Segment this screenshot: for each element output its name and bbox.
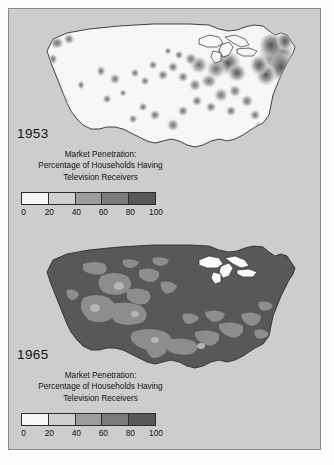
legend-1953: 0 20 40 60 80 100: [21, 192, 156, 220]
legend-swatch-20-40: [48, 193, 75, 204]
usa-choropleth-1953: [23, 15, 309, 165]
year-label-1953: 1953: [17, 127, 49, 141]
legend-tick-60: 60: [99, 207, 108, 217]
map-caption-1953: Market Penetration: Percentage of Househ…: [13, 149, 188, 183]
figure-frame: 1953 Market Penetration: Percentage of H…: [8, 8, 321, 450]
caption-line-1: Market Penetration:: [13, 149, 188, 160]
legend-ticks-1953: 0 20 40 60 80 100: [21, 207, 156, 220]
legend-tick-40: 40: [72, 428, 81, 438]
legend-tick-80: 80: [126, 428, 135, 438]
figure-page: 1953 Market Penetration: Percentage of H…: [0, 0, 334, 465]
legend-tick-20: 20: [45, 428, 54, 438]
usa-choropleth-1965: [23, 236, 309, 386]
map-caption-1965: Market Penetration: Percentage of Househ…: [13, 370, 188, 404]
legend-tick-0: 0: [21, 428, 26, 438]
caption-line-2: Percentage of Households Having: [13, 160, 188, 171]
legend-tick-100: 100: [149, 207, 163, 217]
map-panel-1965: 1965 Market Penetration: Percentage of H…: [9, 230, 320, 450]
caption-line-3: Television Receivers: [13, 393, 188, 404]
legend-swatch-40-60: [75, 193, 102, 204]
legend-swatches-1953: [21, 192, 156, 205]
caption-line-1: Market Penetration:: [13, 370, 188, 381]
caption-line-2: Percentage of Households Having: [13, 381, 188, 392]
legend-tick-40: 40: [72, 207, 81, 217]
legend-tick-0: 0: [21, 207, 26, 217]
year-label-1965: 1965: [17, 348, 49, 362]
legend-swatch-80-100: [128, 193, 155, 204]
map-graphic-1953: [23, 15, 309, 165]
legend-swatch-60-80: [101, 193, 128, 204]
legend-swatch-40-60: [75, 414, 102, 425]
map-panel-1953: 1953 Market Penetration: Percentage of H…: [9, 9, 320, 230]
legend-swatch-80-100: [128, 414, 155, 425]
legend-swatch-0-20: [22, 414, 48, 425]
legend-swatch-20-40: [48, 414, 75, 425]
legend-1965: 0 20 40 60 80 100: [21, 413, 156, 441]
legend-swatch-0-20: [22, 193, 48, 204]
legend-swatch-60-80: [101, 414, 128, 425]
legend-tick-100: 100: [149, 428, 163, 438]
caption-line-3: Television Receivers: [13, 172, 188, 183]
legend-tick-20: 20: [45, 207, 54, 217]
legend-tick-80: 80: [126, 207, 135, 217]
legend-swatches-1965: [21, 413, 156, 426]
legend-ticks-1965: 0 20 40 60 80 100: [21, 428, 156, 441]
map-graphic-1965: [23, 236, 309, 386]
legend-tick-60: 60: [99, 428, 108, 438]
